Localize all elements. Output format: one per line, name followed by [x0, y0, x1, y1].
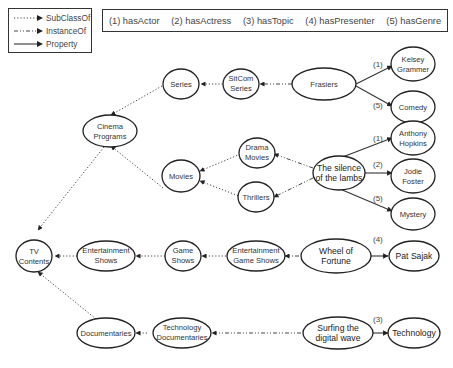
node-documentaries[interactable]: Documentaries [77, 318, 135, 348]
node-mystery[interactable]: Mystery [391, 198, 435, 230]
node-game-shows[interactable]: Game Shows [165, 241, 201, 271]
node-entertainment-game-shows[interactable]: Entertainment Game Shows [227, 241, 285, 271]
svg-text:Drama: Drama [246, 143, 270, 152]
edge-label: (5) [373, 194, 383, 203]
svg-text:Game Shows: Game Shows [233, 256, 279, 265]
edge-label: (2) [373, 160, 383, 169]
edge-label: (1) [373, 134, 383, 143]
svg-text:Frasiers: Frasiers [310, 80, 338, 89]
node-comedy[interactable]: Comedy [391, 91, 435, 123]
svg-text:Entertainment: Entertainment [82, 246, 130, 255]
svg-text:Technology: Technology [163, 323, 202, 332]
svg-text:Grammer: Grammer [397, 65, 430, 74]
node-technology-documentaries[interactable]: Technology Documentaries [153, 318, 211, 348]
svg-text:Game: Game [173, 246, 194, 255]
node-movies[interactable]: Movies [162, 160, 200, 192]
node-cinema-programs[interactable]: Cinema Programs [83, 115, 137, 147]
svg-text:Movies: Movies [169, 172, 193, 181]
node-drama-movies[interactable]: Drama Movies [239, 138, 275, 168]
node-kelsey-grammer[interactable]: Kelsey Grammer [391, 47, 435, 81]
svg-text:Anthony: Anthony [399, 129, 427, 138]
svg-text:Documentaries: Documentaries [156, 333, 207, 342]
node-frasiers[interactable]: Frasiers [292, 68, 356, 100]
node-surfing-the-digital-wave[interactable]: Surfing the digital wave [303, 317, 373, 349]
svg-text:digital wave: digital wave [316, 333, 361, 343]
node-wheel-of-fortune[interactable]: Wheel of Fortune [301, 239, 371, 273]
svg-text:The silence: The silence [317, 163, 361, 173]
svg-text:Fortune: Fortune [321, 256, 351, 266]
property-edges [340, 66, 392, 333]
edge-label: (3) [373, 315, 383, 324]
svg-text:Cinema: Cinema [97, 122, 124, 131]
svg-text:Wheel of: Wheel of [319, 246, 354, 256]
svg-text:Movies: Movies [245, 153, 269, 162]
svg-text:Thrillers: Thrillers [242, 193, 269, 202]
node-silence-of-the-lambs[interactable]: The silence of the lambs [313, 156, 365, 190]
svg-text:Foster: Foster [402, 177, 424, 186]
svg-text:TV: TV [29, 247, 40, 256]
svg-text:Pat Sajak: Pat Sajak [396, 251, 433, 261]
node-anthony-hopkins[interactable]: Anthony Hopkins [391, 121, 435, 155]
svg-text:Kelsey: Kelsey [402, 55, 425, 64]
svg-text:Documentaries: Documentaries [80, 329, 131, 338]
node-technology[interactable]: Technology [388, 318, 440, 348]
node-pat-sajak[interactable]: Pat Sajak [389, 241, 439, 271]
svg-text:Series: Series [170, 80, 192, 89]
svg-text:Surfing the: Surfing the [317, 323, 359, 333]
svg-text:Hopkins: Hopkins [399, 139, 427, 148]
node-thrillers[interactable]: Thrillers [238, 182, 274, 212]
edge-label: (5) [373, 101, 383, 110]
svg-text:Series: Series [230, 84, 252, 93]
svg-text:Shows: Shows [95, 256, 118, 265]
svg-text:Jodie: Jodie [404, 167, 422, 176]
svg-text:of the lambs: of the lambs [316, 173, 363, 183]
node-tv-contents[interactable]: TV Contents [16, 240, 52, 272]
svg-text:Entertainment: Entertainment [232, 246, 280, 255]
svg-text:Comedy: Comedy [399, 103, 427, 112]
node-sitcom-series[interactable]: SitCom Series [223, 69, 259, 99]
svg-text:Shows: Shows [172, 256, 195, 265]
node-entertainment-shows[interactable]: Entertainment Shows [77, 241, 135, 271]
svg-text:Programs: Programs [94, 132, 127, 141]
subclass-edges [38, 84, 244, 333]
svg-text:Mystery: Mystery [400, 210, 427, 219]
edge-label: (4) [373, 235, 383, 244]
node-jodie-foster[interactable]: Jodie Foster [391, 159, 435, 193]
svg-text:SitCom: SitCom [229, 74, 254, 83]
node-series[interactable]: Series [163, 69, 199, 99]
ontology-diagram: (1) (5) (1) (2) (5) (4) (3) TV Contents … [0, 0, 453, 368]
edge-label: (1) [373, 60, 383, 69]
svg-text:Technology: Technology [392, 328, 436, 338]
svg-text:Contents: Contents [19, 257, 50, 266]
